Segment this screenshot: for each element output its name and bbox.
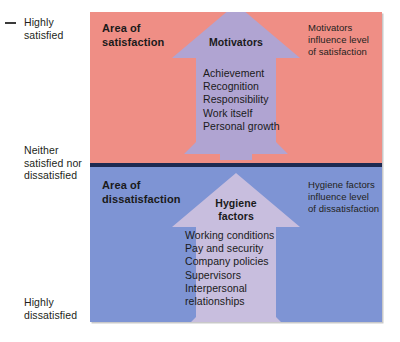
motivators-title: Motivators [170,36,302,49]
theory-block: Area of satisfaction Motivators Achievem… [90,12,382,322]
satisfaction-area-title: Area of satisfaction [102,22,164,49]
axis-label-highly-dissatisfied: Highly dissatisfied [24,296,77,321]
dissatisfaction-area-title: Area of dissatisfaction [102,179,181,206]
diagram-canvas: Highly satisfied Neither satisfied nor d… [0,0,400,342]
satisfaction-side-note: Motivators influence level of satisfacti… [308,22,369,58]
hygiene-title: Hygiene factors [170,197,302,222]
axis-label-neither: Neither satisfied nor dissatisfied [24,144,82,182]
axis-tick-highly-satisfied [5,22,16,24]
dissatisfaction-region: Area of dissatisfaction Hygiene factors … [90,167,382,322]
satisfaction-region: Area of satisfaction Motivators Achievem… [90,12,382,163]
hygiene-factor-list: Working conditions Pay and security Comp… [185,229,274,308]
axis-label-highly-satisfied: Highly satisfied [24,16,63,41]
dissatisfaction-side-note: Hygiene factors influence level of dissa… [308,179,379,215]
motivators-factor-list: Achievement Recognition Responsibility W… [203,67,280,133]
